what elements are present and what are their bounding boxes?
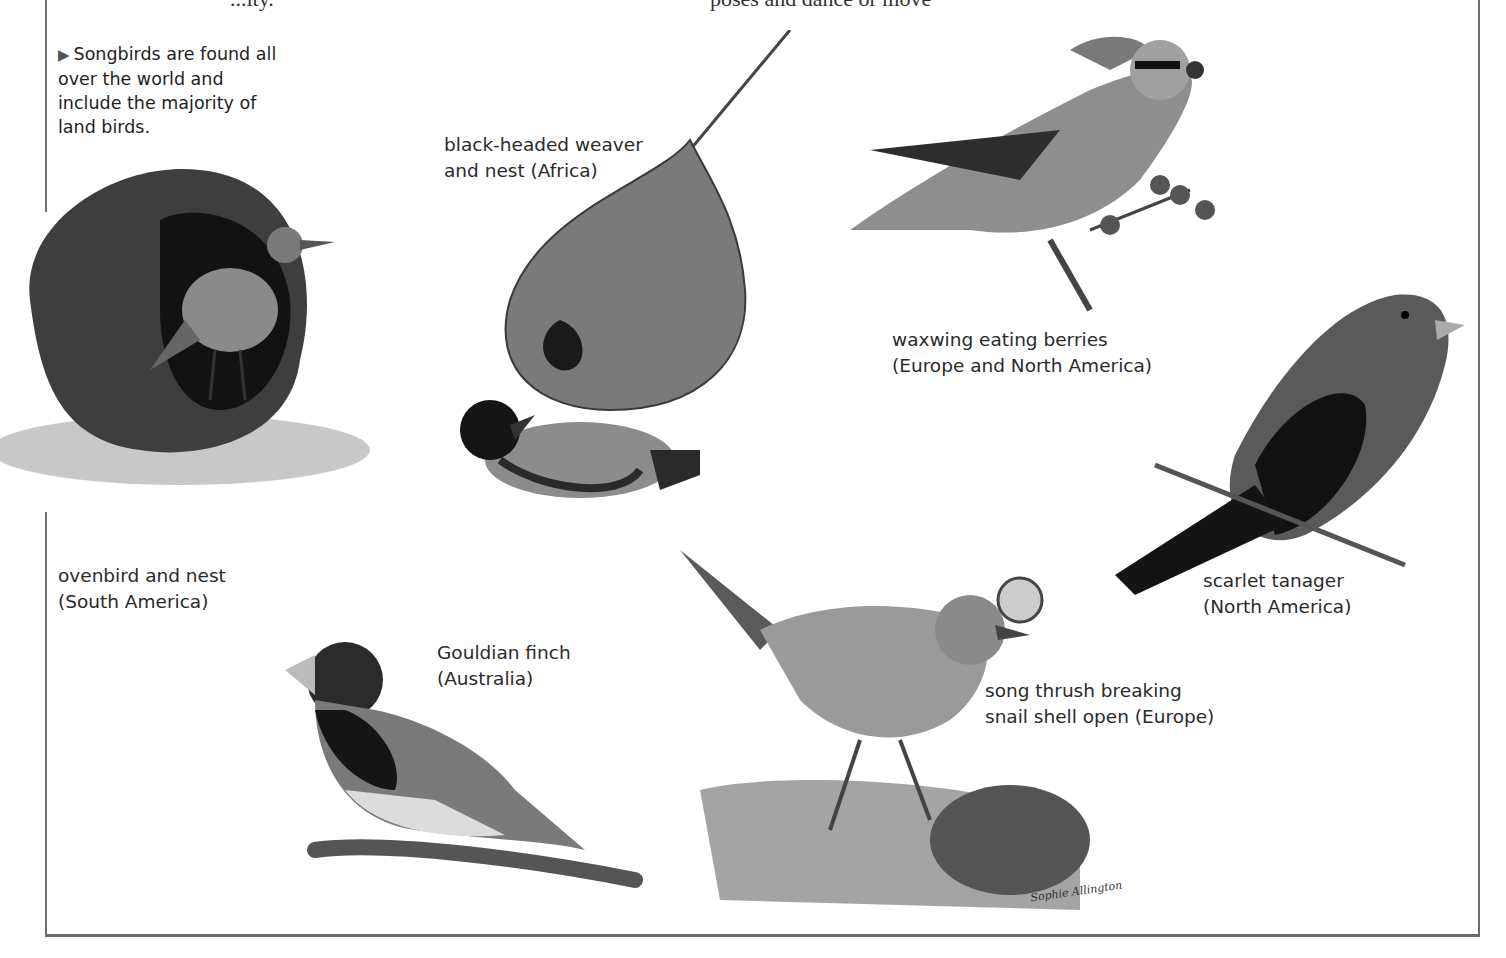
- caption-gouldian-line2: (Australia): [437, 666, 571, 692]
- intro-text: Songbirds are found all over the world a…: [58, 44, 276, 137]
- waxwing-illustration: [840, 30, 1240, 320]
- ovenbird-illustration: [0, 160, 380, 490]
- caption-gouldian-line1: Gouldian finch: [437, 640, 571, 666]
- caption-tanager-line1: scarlet tanager: [1203, 568, 1351, 594]
- caption-tanager: scarlet tanager (North America): [1203, 568, 1351, 620]
- caption-ovenbird: ovenbird and nest (South America): [58, 563, 226, 615]
- caption-waxwing-line1: waxwing eating berries: [892, 327, 1152, 353]
- caption-thrush: song thrush breaking snail shell open (E…: [985, 678, 1214, 730]
- frame-bottom-border: [45, 934, 1480, 937]
- caption-weaver-line1: black-headed weaver: [444, 132, 643, 158]
- cut-off-text-right: poses and dance or move: [710, 0, 931, 12]
- frame-right-border: [1478, 0, 1480, 937]
- caption-thrush-line1: song thrush breaking: [985, 678, 1214, 704]
- caption-waxwing-line2: (Europe and North America): [892, 353, 1152, 379]
- caption-thrush-line2: snail shell open (Europe): [985, 704, 1214, 730]
- triangle-bullet-icon: ▶: [58, 46, 70, 64]
- intro-paragraph: ▶Songbirds are found all over the world …: [58, 42, 288, 139]
- weaver-illustration: [440, 30, 800, 520]
- caption-weaver: black-headed weaver and nest (Africa): [444, 132, 643, 184]
- cut-off-text-left: ...ity.: [230, 0, 274, 12]
- caption-ovenbird-line2: (South America): [58, 589, 226, 615]
- caption-waxwing: waxwing eating berries (Europe and North…: [892, 327, 1152, 379]
- frame-left-border-bottom: [45, 512, 47, 937]
- caption-gouldian: Gouldian finch (Australia): [437, 640, 571, 692]
- scarlet-tanager-illustration: [1115, 285, 1475, 605]
- caption-weaver-line2: and nest (Africa): [444, 158, 643, 184]
- caption-ovenbird-line1: ovenbird and nest: [58, 563, 226, 589]
- caption-tanager-line2: (North America): [1203, 594, 1351, 620]
